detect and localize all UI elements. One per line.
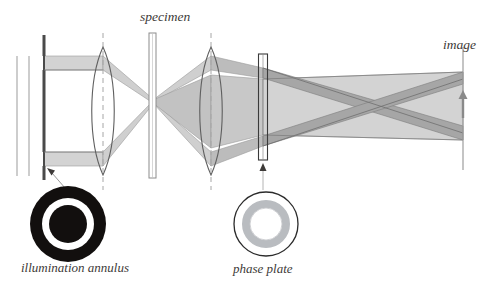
direct-beam-upper-source-to-condenser — [44, 56, 103, 70]
phase-plate-icon-inner-circle — [250, 208, 282, 240]
annulus-block-bottom — [43, 166, 46, 180]
specimen-slide[interactable] — [149, 33, 156, 178]
phase-plate-callout-arrowhead — [260, 163, 267, 171]
beam-bundles — [44, 56, 463, 166]
figure-canvas: specimen image illumination annulus phas… — [0, 0, 499, 301]
annulus-block-middle — [43, 70, 46, 152]
label-phase-plate: phase plate — [233, 262, 293, 275]
illumination-annulus-icon[interactable] — [30, 186, 106, 262]
annulus-block-top — [43, 35, 46, 56]
phase-plate-icon[interactable] — [234, 192, 298, 256]
direct-beam-upper-condenser-to-focus — [103, 56, 153, 103]
label-image: image — [443, 38, 476, 52]
optical-path-diagram — [0, 0, 499, 301]
diffracted-beam-objective-to-plate — [211, 75, 263, 148]
label-illumination-annulus: illumination annulus — [21, 261, 129, 274]
label-specimen: specimen — [140, 10, 190, 24]
source-rails — [17, 56, 29, 176]
annulus-icon-inner-dark — [49, 205, 87, 243]
direct-beam-lower-condenser-to-focus — [103, 101, 153, 166]
direct-beam-lower-source-to-condenser — [44, 152, 103, 166]
